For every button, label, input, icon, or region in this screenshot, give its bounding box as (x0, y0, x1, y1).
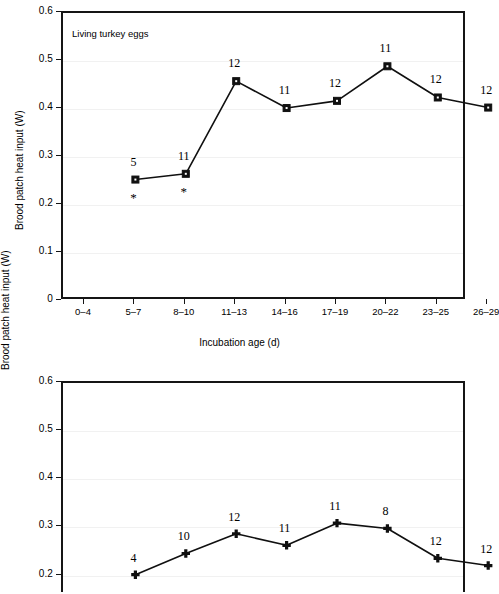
x-axis-tick-mark (83, 299, 84, 304)
data-point-marker (232, 530, 240, 538)
x-axis-tick-label: 5–7 (125, 307, 141, 317)
x-axis-tick-mark (436, 299, 437, 304)
chart-panel-living-turkey-eggs: Brood patch heat input (W) 00.10.20.30.4… (0, 0, 479, 360)
data-point-sample-size: 11 (279, 522, 291, 534)
data-point-marker-center (437, 96, 439, 98)
x-axis-tick-label: 8–10 (173, 307, 194, 317)
data-point-sample-size: 8 (382, 505, 388, 517)
x-axis-tick-label: 17–19 (322, 307, 348, 317)
x-axis-tick-mark (234, 299, 235, 304)
y-axis-tick-label: 0.6 (23, 6, 53, 16)
y-axis-tick-label: 0.5 (23, 424, 53, 434)
significance-asterisk: * (181, 188, 188, 196)
x-axis-tick-label: 11–13 (221, 307, 247, 317)
data-point-sample-size: 12 (430, 73, 442, 85)
data-point-marker (383, 524, 391, 532)
x-axis-tick-mark (133, 299, 134, 304)
y-axis-tick-label: 0.6 (23, 376, 53, 386)
data-point-marker-center (336, 100, 338, 102)
data-point-marker (434, 554, 442, 562)
data-point-sample-size: 11 (178, 150, 190, 162)
data-point-sample-size: 5 (130, 156, 136, 168)
data-point-marker-center (386, 65, 388, 67)
plot-area-killed (61, 381, 465, 592)
y-axis-title-killed: Brood patch heat input (W) (0, 250, 11, 370)
data-point-sample-size: 12 (228, 511, 240, 523)
data-point-sample-size: 4 (130, 552, 136, 564)
x-axis-tick-mark (184, 299, 185, 304)
data-point-marker-center (185, 173, 187, 175)
y-axis-tick-label: 0.3 (23, 520, 53, 530)
x-axis-tick-label: 26–29 (473, 307, 499, 317)
y-axis-tick-label: 0.1 (23, 246, 53, 256)
data-point-marker-center (235, 80, 237, 82)
data-series-living (63, 13, 467, 301)
data-point-marker-center (286, 107, 288, 109)
x-axis-tick-mark (285, 299, 286, 304)
data-point-marker (182, 549, 190, 557)
x-axis-tick-label: 20–22 (372, 307, 398, 317)
data-point-marker-center (134, 179, 136, 181)
data-point-sample-size: 12 (480, 84, 492, 96)
x-axis-title-living: Incubation age (d) (0, 337, 479, 348)
y-axis-tick-label: 0.2 (23, 569, 53, 579)
y-axis-tick-label: 0.5 (23, 54, 53, 64)
y-axis-title: Brood patch heat input (W) (14, 110, 25, 230)
data-point-sample-size: 12 (480, 543, 492, 555)
plot-area-living (61, 11, 465, 299)
x-axis-tick-mark (385, 299, 386, 304)
data-point-marker (333, 519, 341, 527)
x-axis-tick-label: 23–25 (423, 307, 449, 317)
x-axis-tick-mark (335, 299, 336, 304)
data-point-sample-size: 12 (329, 77, 341, 89)
chart-panel-killed-turkey-eggs: Brood patch heat input (W) 0.20.30.40.50… (0, 370, 479, 587)
y-axis-tick-label: 0.2 (23, 198, 53, 208)
x-axis-tick-label: 14–16 (271, 307, 297, 317)
significance-asterisk: * (130, 194, 137, 202)
data-point-marker (131, 570, 139, 578)
x-axis-tick-mark (486, 299, 487, 304)
data-point-sample-size: 11 (329, 500, 341, 512)
y-axis-tick-label: 0.4 (23, 472, 53, 482)
data-point-marker-center (487, 107, 489, 109)
data-point-sample-size: 12 (228, 57, 240, 69)
x-axis-tick-label: 0–4 (75, 307, 91, 317)
data-point-sample-size: 11 (279, 84, 291, 96)
data-point-sample-size: 11 (380, 42, 392, 54)
data-point-sample-size: 12 (430, 535, 442, 547)
y-axis-tick-mark (56, 299, 61, 300)
y-axis-tick-label: 0.3 (23, 150, 53, 160)
panel-caption-living: Living turkey eggs (72, 28, 149, 39)
data-point-sample-size: 10 (178, 530, 190, 542)
data-series-killed (63, 383, 467, 594)
data-point-marker (282, 541, 290, 549)
y-axis-tick-label: 0 (23, 294, 53, 304)
y-axis-tick-label: 0.4 (23, 102, 53, 112)
data-point-marker (484, 561, 492, 569)
